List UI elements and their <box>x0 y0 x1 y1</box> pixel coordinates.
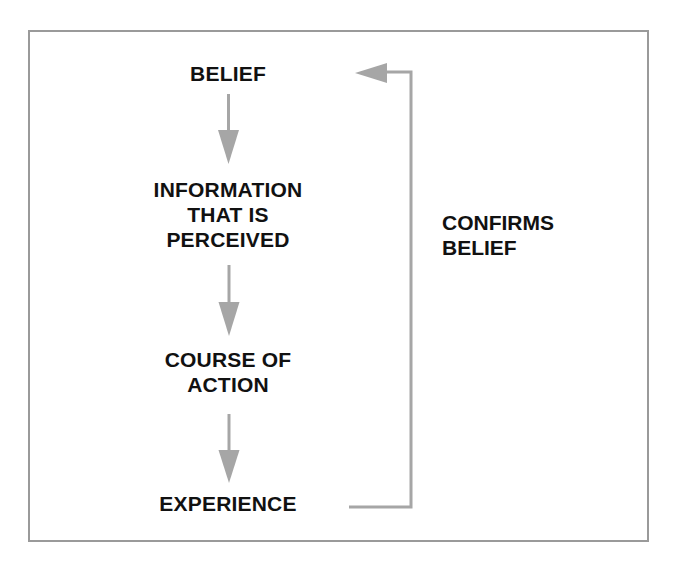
arrows-layer <box>0 0 676 568</box>
arrow-down-icon <box>218 94 239 164</box>
feedback-arrow-icon <box>349 63 411 507</box>
arrow-down-icon <box>219 265 240 336</box>
arrow-down-icon <box>219 414 240 483</box>
